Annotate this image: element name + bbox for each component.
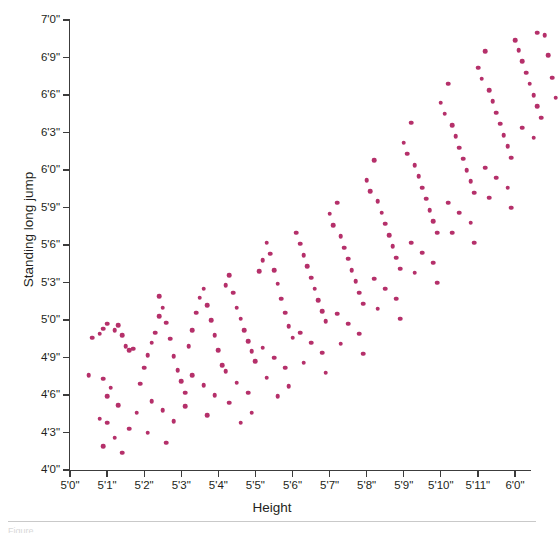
data-point bbox=[494, 175, 499, 180]
data-point bbox=[105, 420, 110, 425]
data-point bbox=[97, 416, 102, 421]
data-point bbox=[246, 390, 251, 395]
data-point bbox=[249, 349, 254, 354]
data-point bbox=[283, 365, 288, 370]
data-point bbox=[335, 200, 340, 205]
data-point bbox=[435, 280, 440, 285]
data-point bbox=[223, 369, 228, 374]
data-point bbox=[253, 359, 258, 364]
data-point bbox=[457, 145, 462, 150]
x-axis-tick-label: 5'5" bbox=[246, 480, 265, 492]
data-point bbox=[298, 330, 303, 335]
data-point bbox=[242, 328, 247, 333]
data-point bbox=[197, 295, 202, 300]
data-point bbox=[157, 294, 162, 299]
x-axis-title: Height bbox=[0, 500, 544, 515]
data-point bbox=[331, 223, 336, 228]
data-point bbox=[357, 290, 362, 295]
data-point bbox=[238, 420, 243, 425]
data-point bbox=[487, 88, 492, 93]
data-point bbox=[138, 381, 143, 386]
data-point bbox=[390, 244, 395, 249]
data-point bbox=[279, 296, 284, 301]
data-point bbox=[309, 340, 314, 345]
data-point bbox=[134, 410, 139, 415]
data-point bbox=[227, 400, 232, 405]
data-point bbox=[216, 348, 221, 353]
data-point bbox=[338, 341, 343, 346]
y-axis-tick-label: 4'3" bbox=[41, 427, 60, 439]
x-axis-tick bbox=[292, 471, 293, 477]
data-point bbox=[164, 440, 169, 445]
x-axis-tick bbox=[106, 471, 107, 477]
data-point bbox=[464, 168, 469, 173]
x-axis-tick-label: 5'11" bbox=[466, 480, 491, 492]
x-axis-tick bbox=[514, 471, 515, 477]
data-point bbox=[335, 311, 340, 316]
data-point bbox=[509, 205, 514, 210]
x-axis-tick-label: 5'2" bbox=[135, 480, 154, 492]
y-axis-tick bbox=[63, 57, 69, 58]
data-point bbox=[505, 185, 510, 190]
data-point bbox=[427, 208, 432, 213]
y-axis-tick-label: 6'6" bbox=[41, 89, 60, 101]
x-axis-tick-label: 5'8" bbox=[357, 480, 376, 492]
data-point bbox=[483, 165, 488, 170]
data-point bbox=[212, 333, 217, 338]
data-point bbox=[379, 210, 384, 215]
y-axis-tick-label: 5'9" bbox=[41, 202, 60, 214]
data-point bbox=[116, 403, 121, 408]
data-point bbox=[320, 309, 325, 314]
data-point bbox=[157, 314, 162, 319]
data-point bbox=[453, 134, 458, 139]
data-point bbox=[164, 320, 169, 325]
data-point bbox=[450, 230, 455, 235]
caption-divider bbox=[8, 521, 536, 522]
x-axis-tick bbox=[403, 471, 404, 477]
data-point bbox=[172, 354, 177, 359]
data-point bbox=[494, 110, 499, 115]
data-point bbox=[409, 120, 414, 125]
data-point bbox=[127, 426, 132, 431]
data-point bbox=[520, 125, 525, 130]
data-point bbox=[368, 189, 373, 194]
data-point bbox=[101, 376, 106, 381]
data-point bbox=[513, 38, 518, 43]
y-axis-tick bbox=[63, 244, 69, 245]
x-axis-tick bbox=[255, 471, 256, 477]
data-point bbox=[457, 210, 462, 215]
x-axis-tick-label: 6'0" bbox=[505, 480, 524, 492]
data-point bbox=[160, 408, 165, 413]
data-point bbox=[249, 410, 254, 415]
data-point bbox=[353, 279, 358, 284]
data-point bbox=[394, 255, 399, 260]
data-point bbox=[535, 30, 540, 35]
data-point bbox=[223, 283, 228, 288]
data-point bbox=[112, 328, 117, 333]
data-point bbox=[190, 373, 195, 378]
data-point bbox=[472, 240, 477, 245]
data-point bbox=[383, 221, 388, 226]
y-axis-tick-label: 6'3" bbox=[41, 127, 60, 139]
data-point bbox=[120, 333, 125, 338]
data-point bbox=[361, 301, 366, 306]
data-point bbox=[246, 339, 251, 344]
data-point bbox=[553, 95, 558, 100]
data-point bbox=[342, 245, 347, 250]
y-axis-tick-label: 5'3" bbox=[41, 277, 60, 289]
data-point bbox=[86, 373, 91, 378]
data-point bbox=[298, 241, 303, 246]
data-point bbox=[101, 326, 106, 331]
data-point bbox=[372, 276, 377, 281]
data-point bbox=[97, 331, 102, 336]
data-point bbox=[275, 394, 280, 399]
x-axis-tick-label: 5'0" bbox=[60, 480, 79, 492]
data-point bbox=[190, 328, 195, 333]
x-axis-tick-label: 5'6" bbox=[283, 480, 302, 492]
data-point bbox=[472, 190, 477, 195]
data-point bbox=[146, 353, 151, 358]
y-axis-tick-label: 7'0" bbox=[41, 14, 60, 26]
data-point bbox=[101, 444, 106, 449]
plot-data-area bbox=[70, 20, 515, 470]
data-point bbox=[398, 266, 403, 271]
